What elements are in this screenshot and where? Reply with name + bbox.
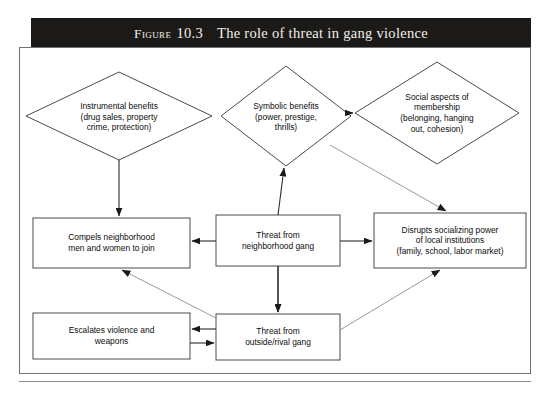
figure-title-number: 10.3 bbox=[176, 25, 203, 42]
node-instrumental-benefits-label: Instrumental benefits (drug sales, prope… bbox=[35, 96, 203, 138]
bottom-divider bbox=[19, 381, 531, 382]
node-compels-join-label: Compels neighborhood men and women to jo… bbox=[35, 220, 188, 266]
figure-title-main: The role of threat in gang violence bbox=[217, 25, 428, 42]
node-disrupts-institutions-label: Disrupts socializing power of local inst… bbox=[376, 215, 524, 266]
figure-root: Figure 10.3 The role of threat in gang v… bbox=[0, 0, 551, 396]
node-social-aspects-label: Social aspects of membership (belonging,… bbox=[368, 87, 506, 139]
node-threat-outside-rival-gang-label: Threat from outside/rival gang bbox=[218, 316, 338, 358]
node-escalates-violence-label: Escalates violence and weapons bbox=[35, 315, 188, 357]
figure-title-bar: Figure 10.3 The role of threat in gang v… bbox=[31, 18, 531, 48]
source-note bbox=[160, 386, 420, 395]
node-symbolic-benefits-label: Symbolic benefits (power, prestige, thri… bbox=[225, 96, 347, 138]
node-threat-neighborhood-gang-label: Threat from neighborhood gang bbox=[218, 217, 338, 264]
figure-title: Figure 10.3 The role of threat in gang v… bbox=[134, 25, 428, 42]
figure-title-kicker: Figure bbox=[134, 26, 171, 42]
